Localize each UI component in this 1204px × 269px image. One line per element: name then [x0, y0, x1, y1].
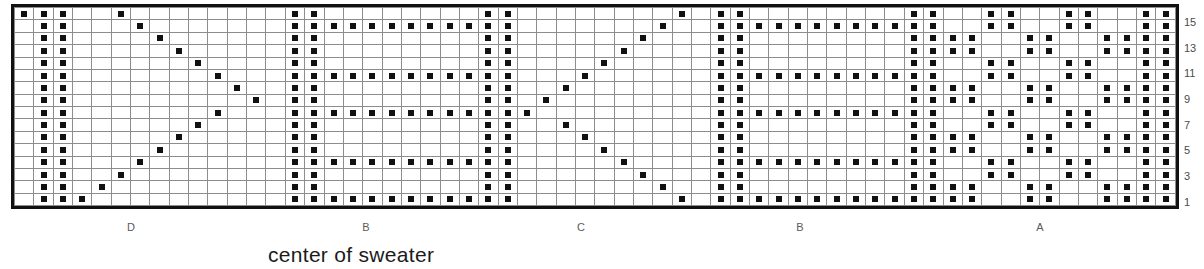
stitch-empty [575, 57, 594, 69]
stitch-empty [827, 45, 846, 57]
stitch-empty [537, 131, 556, 143]
stitch-empty [1059, 193, 1078, 205]
stitch-filled [305, 45, 324, 57]
stitch-filled [34, 119, 53, 131]
stitch-empty [692, 20, 711, 32]
stitch-filled [904, 82, 923, 94]
stitch-empty [750, 119, 769, 131]
stitch-empty [634, 107, 653, 119]
stitch-empty [169, 144, 188, 156]
stitch-filled [1040, 45, 1059, 57]
stitch-filled [711, 20, 730, 32]
stitch-filled [285, 8, 304, 20]
chart-row [15, 168, 1176, 180]
stitch-empty [343, 144, 362, 156]
stitch-empty [846, 94, 865, 106]
stitch-empty [1040, 8, 1059, 20]
stitch-empty [575, 156, 594, 168]
stitch-empty [614, 193, 633, 205]
stitch-filled [421, 193, 440, 205]
stitch-empty [111, 144, 130, 156]
stitch-empty [575, 32, 594, 44]
stitch-empty [92, 8, 111, 20]
stitch-filled [1136, 20, 1155, 32]
stitch-empty [111, 181, 130, 193]
stitch-empty [769, 57, 788, 69]
stitch-empty [401, 32, 420, 44]
stitch-empty [189, 32, 208, 44]
stitch-filled [1098, 144, 1117, 156]
stitch-filled [808, 69, 827, 81]
stitch-filled [53, 45, 72, 57]
stitch-empty [653, 32, 672, 44]
stitch-empty [537, 119, 556, 131]
stitch-empty [131, 119, 150, 131]
stitch-empty [537, 32, 556, 44]
stitch-filled [1136, 168, 1155, 180]
stitch-filled [769, 69, 788, 81]
stitch-empty [653, 82, 672, 94]
stitch-filled [343, 20, 362, 32]
stitch-empty [208, 144, 227, 156]
stitch-filled [904, 156, 923, 168]
stitch-empty [343, 82, 362, 94]
stitch-empty [788, 181, 807, 193]
stitch-empty [189, 144, 208, 156]
stitch-empty [595, 156, 614, 168]
stitch-empty [266, 57, 285, 69]
stitch-empty [227, 193, 246, 205]
stitch-empty [885, 181, 904, 193]
stitch-filled [285, 32, 304, 44]
stitch-empty [827, 181, 846, 193]
stitch-empty [769, 119, 788, 131]
stitch-empty [653, 69, 672, 81]
stitch-filled [285, 193, 304, 205]
stitch-filled [1020, 32, 1039, 44]
stitch-filled [1136, 181, 1155, 193]
stitch-filled [1117, 94, 1136, 106]
chart-grid [14, 7, 1176, 206]
stitch-empty [556, 8, 575, 20]
stitch-empty [595, 45, 614, 57]
stitch-filled [885, 107, 904, 119]
stitch-filled [924, 107, 943, 119]
stitch-filled [479, 32, 498, 44]
stitch-empty [247, 131, 266, 143]
stitch-filled [924, 131, 943, 143]
stitch-empty [440, 168, 459, 180]
stitch-empty [1001, 193, 1020, 205]
stitch-empty [382, 144, 401, 156]
stitch-filled [53, 144, 72, 156]
stitch-empty [169, 107, 188, 119]
stitch-filled [479, 107, 498, 119]
stitch-empty [672, 107, 691, 119]
stitch-empty [517, 181, 536, 193]
stitch-filled [982, 57, 1001, 69]
stitch-empty [672, 168, 691, 180]
stitch-empty [189, 94, 208, 106]
stitch-empty [459, 82, 478, 94]
stitch-filled [1040, 131, 1059, 143]
stitch-empty [1020, 20, 1039, 32]
stitch-empty [866, 8, 885, 20]
row-number: 13 [1184, 43, 1204, 54]
stitch-empty [614, 8, 633, 20]
stitch-empty [189, 181, 208, 193]
stitch-filled [1001, 8, 1020, 20]
stitch-filled [169, 131, 188, 143]
stitch-empty [247, 8, 266, 20]
stitch-filled [479, 57, 498, 69]
stitch-empty [324, 94, 343, 106]
stitch-empty [440, 144, 459, 156]
stitch-filled [1156, 144, 1176, 156]
stitch-filled [924, 119, 943, 131]
stitch-empty [324, 131, 343, 143]
stitch-empty [982, 94, 1001, 106]
stitch-empty [1040, 57, 1059, 69]
stitch-filled [1156, 181, 1176, 193]
stitch-empty [266, 193, 285, 205]
stitch-empty [885, 8, 904, 20]
row-number: 5 [1184, 145, 1204, 156]
stitch-empty [92, 94, 111, 106]
stitch-empty [556, 131, 575, 143]
